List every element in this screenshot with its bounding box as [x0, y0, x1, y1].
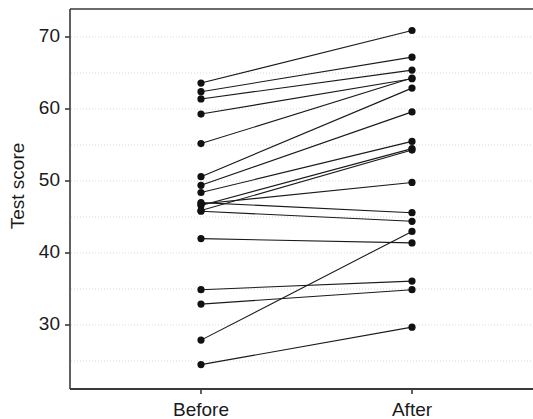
data-point-marker [408, 228, 415, 235]
data-point-marker [197, 110, 204, 117]
data-point-marker [197, 286, 204, 293]
data-point-marker [408, 277, 415, 284]
data-point-marker [408, 108, 415, 115]
slope-line [201, 182, 412, 204]
data-point-marker [408, 218, 415, 225]
slope-line [201, 290, 412, 304]
slope-lines [201, 31, 412, 365]
data-point-marker [408, 54, 415, 61]
x-tick-label: After [352, 399, 472, 419]
data-point-marker [408, 209, 415, 216]
x-tick-label: Before [141, 399, 261, 419]
slope-line [201, 231, 412, 340]
y-tick-label: 30 [39, 313, 60, 335]
y-axis-title: Test score [7, 106, 29, 266]
data-point-marker [408, 286, 415, 293]
data-point-marker [408, 67, 415, 74]
slope-line [201, 149, 412, 206]
data-point-marker [197, 235, 204, 242]
data-point-marker [408, 27, 415, 34]
y-tick-label: 60 [39, 97, 60, 119]
data-point-marker [408, 179, 415, 186]
slope-line [201, 211, 412, 221]
y-tick-label: 40 [39, 241, 60, 263]
y-tick-label: 50 [39, 169, 60, 191]
data-point-marker [197, 361, 204, 368]
slope-line [201, 31, 412, 84]
data-point-marker [197, 208, 204, 215]
data-point-marker [408, 85, 415, 92]
data-point-marker [197, 301, 204, 308]
slope-line [201, 239, 412, 243]
data-point-marker [197, 189, 204, 196]
data-point-marker [408, 146, 415, 153]
slope-chart: Test score 3040506070 BeforeAfter [0, 0, 533, 419]
data-point-marker [408, 324, 415, 331]
data-point-marker [197, 95, 204, 102]
data-point-marker [408, 138, 415, 145]
slope-line [201, 78, 412, 144]
slope-line [201, 327, 412, 364]
slope-line [201, 88, 412, 177]
data-point-marker [408, 239, 415, 246]
chart-canvas [0, 0, 533, 419]
data-point-marker [197, 182, 204, 189]
y-tick-label: 70 [39, 25, 60, 47]
slope-line [201, 203, 412, 213]
data-point-marker [408, 74, 415, 81]
data-point-marker [197, 337, 204, 344]
data-point-marker [197, 140, 204, 147]
data-point-marker [197, 173, 204, 180]
data-point-marker [197, 88, 204, 95]
slope-line [201, 150, 412, 210]
data-point-marker [197, 199, 204, 206]
axis-ticks [65, 37, 412, 394]
data-point-marker [197, 79, 204, 86]
panel-border [70, 9, 533, 389]
